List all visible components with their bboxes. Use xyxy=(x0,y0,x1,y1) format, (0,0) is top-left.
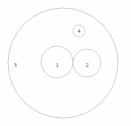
label-region-4: 4 xyxy=(78,28,81,34)
label-region-3: 3 xyxy=(13,61,16,68)
label-region-1: 1 xyxy=(55,61,58,68)
circle-outer-region-3 xyxy=(8,8,118,118)
circle-diagram: 3 1 2 4 xyxy=(0,0,131,126)
diagram-canvas: 3 1 2 4 xyxy=(0,0,131,126)
label-region-2: 2 xyxy=(85,61,88,68)
